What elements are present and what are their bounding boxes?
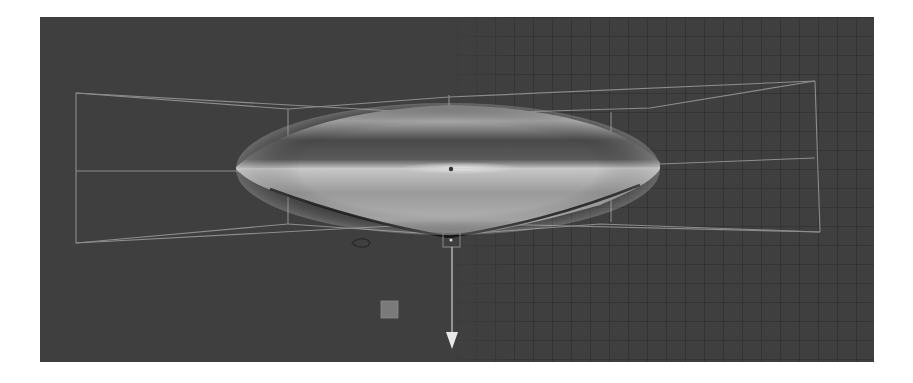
3d-viewport[interactable] [40, 17, 874, 362]
light-icon[interactable] [352, 239, 370, 247]
pivot-square-icon[interactable] [381, 301, 398, 318]
pivot-center-icon [449, 167, 453, 171]
